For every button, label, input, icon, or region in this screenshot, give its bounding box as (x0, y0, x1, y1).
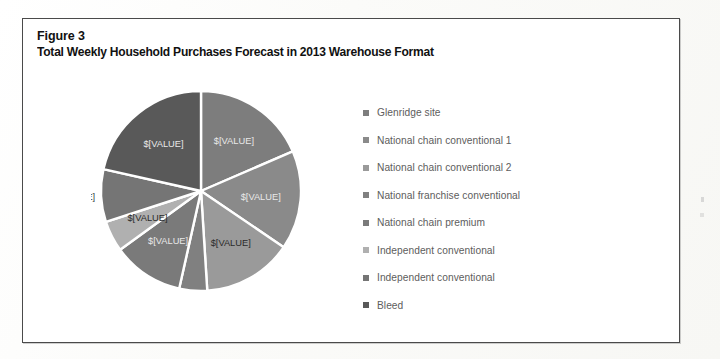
scan-artifact-mark-1 (701, 197, 704, 202)
legend-item-label: Independent conventional (377, 272, 495, 283)
legend-square-icon (363, 110, 369, 116)
legend-item-label: Bleed (377, 300, 403, 311)
pie-slice-label: $[VALUE] (148, 236, 188, 246)
chart-area: $[VALUE]$[VALUE]$[VALUE]$[VALUE]$[VALUE]… (23, 71, 681, 343)
legend-item[interactable]: National franchise conventional (363, 182, 613, 210)
figure-number: Figure 3 (37, 28, 657, 44)
pie-slice-label: $[VALUE] (127, 213, 167, 223)
pie-slice-label: $[VALUE] (91, 192, 95, 202)
legend-square-icon (363, 165, 369, 171)
pie-slice-label: $[VALUE] (143, 139, 183, 149)
legend-item[interactable]: National chain conventional 2 (363, 154, 613, 182)
legend-item[interactable]: National chain premium (363, 209, 613, 237)
legend-item-label: National chain premium (377, 217, 485, 228)
legend-item[interactable]: Bleed (363, 292, 613, 320)
pie-slice-label: $[VALUE] (241, 192, 281, 202)
legend-item-label: National chain conventional 1 (377, 135, 512, 146)
legend-item-label: Independent conventional (377, 245, 495, 256)
legend-item[interactable]: Glenridge site (363, 99, 613, 127)
legend-square-icon (363, 137, 369, 143)
figure-title: Total Weekly Household Purchases Forecas… (37, 44, 635, 61)
pie-slice-label: $[VALUE] (211, 238, 251, 248)
legend-item[interactable]: Independent conventional (363, 237, 613, 265)
figure-header: Figure 3 Total Weekly Household Purchase… (37, 28, 657, 61)
pie-chart: $[VALUE]$[VALUE]$[VALUE]$[VALUE]$[VALUE]… (91, 81, 311, 301)
chart-legend: Glenridge site National chain convention… (363, 99, 613, 319)
legend-item-label: National chain conventional 2 (377, 162, 512, 173)
pie-slice-label: $[VALUE] (214, 136, 254, 146)
legend-item-label: National franchise conventional (377, 190, 520, 201)
legend-item[interactable]: Independent conventional (363, 264, 613, 292)
legend-square-icon (363, 275, 369, 281)
pie-chart-svg: $[VALUE]$[VALUE]$[VALUE]$[VALUE]$[VALUE]… (91, 81, 311, 301)
legend-square-icon (363, 220, 369, 226)
legend-item-label: Glenridge site (377, 107, 441, 118)
legend-square-icon (363, 302, 369, 308)
scan-artifact-mark-2 (700, 213, 704, 217)
figure-container: Figure 3 Total Weekly Household Purchase… (22, 18, 680, 343)
legend-square-icon (363, 247, 369, 253)
legend-square-icon (363, 192, 369, 198)
legend-item[interactable]: National chain conventional 1 (363, 127, 613, 155)
